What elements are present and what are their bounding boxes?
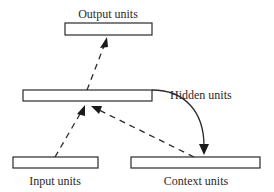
context-to-hidden-arrow [91, 106, 194, 157]
output-units-label: Output units [78, 7, 138, 21]
context-units-box [131, 157, 260, 168]
arrowhead-icon [91, 106, 102, 114]
hidden-units-label: Hidden units [170, 88, 232, 102]
input-to-hidden-arrow [55, 105, 85, 157]
hidden-units-box [23, 90, 152, 101]
hidden-to-output-arrow [87, 37, 108, 90]
input-units-box [13, 157, 98, 168]
input-units-label: Input units [29, 174, 81, 188]
arrowhead-icon [100, 37, 108, 48]
recurrent-network-diagram: Output units Hidden units Input units Co… [0, 0, 274, 192]
context-units-label: Context units [164, 174, 229, 188]
arrowhead-icon [77, 105, 85, 116]
arrowhead-icon [199, 144, 209, 155]
output-units-box [65, 23, 152, 35]
